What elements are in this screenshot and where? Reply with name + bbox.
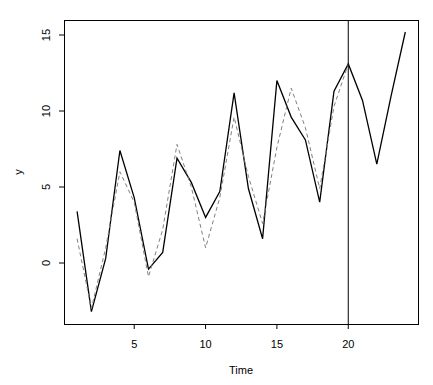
y-axis: 051015 bbox=[40, 29, 64, 266]
y-tick-label: 5 bbox=[40, 184, 52, 190]
x-axis: 5101520 bbox=[131, 324, 354, 350]
x-tick-label: 15 bbox=[271, 338, 283, 350]
x-tick-label: 10 bbox=[199, 338, 211, 350]
x-tick-label: 5 bbox=[131, 338, 137, 350]
x-tick-label: 20 bbox=[342, 338, 354, 350]
series-group bbox=[77, 32, 405, 312]
y-tick-label: 10 bbox=[40, 105, 52, 117]
time-series-chart: 5101520 051015 Time y bbox=[0, 0, 433, 385]
y-tick-label: 0 bbox=[40, 260, 52, 266]
series-fitted-line bbox=[77, 64, 348, 309]
y-axis-label: y bbox=[12, 169, 24, 175]
series-observed-line bbox=[77, 32, 405, 312]
x-axis-label: Time bbox=[229, 364, 253, 376]
y-tick-label: 15 bbox=[40, 29, 52, 41]
plot-area bbox=[65, 20, 419, 325]
